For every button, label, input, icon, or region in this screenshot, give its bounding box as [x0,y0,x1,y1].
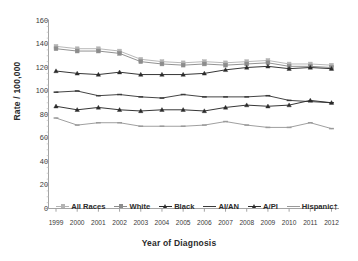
data-point [160,62,164,66]
series-all-races [54,44,333,67]
line-chart: Rate / 100,000 160140120100806040200 All… [0,0,358,261]
legend-label: All Races [71,202,105,211]
legend-label: White [129,202,150,211]
legend-item-hispanic-[interactable]: Hispanic† [287,202,338,211]
data-point [54,104,58,108]
x-axis-title: Year of Diagnosis [0,238,358,248]
series-white [54,47,333,70]
legend-label: AI/AN [218,202,239,211]
data-point [139,60,143,64]
series-hispanic- [54,118,334,129]
legend-item-black[interactable]: Black [159,202,194,211]
axis-ticks [45,21,331,212]
data-point [118,52,122,56]
legend-marker-icon [159,203,172,211]
legend-label: Black [174,202,194,211]
data-point [202,62,206,66]
legend-item-all-races[interactable]: All Races [56,202,105,211]
data-point [54,47,58,51]
data-point [75,49,79,53]
legend-label: Hispanic† [302,202,338,211]
series-ai-an [54,91,334,103]
chart-legend: All RacesWhiteBlackAI/ANA/PIHispanic† [56,200,338,213]
data-point [224,63,228,67]
legend-marker-icon [56,203,69,211]
legend-marker-icon [287,203,300,211]
legend-marker-icon [203,203,216,211]
axis-lines [49,20,340,209]
legend-item-ai-an[interactable]: AI/AN [203,202,239,211]
legend-label: A/PI [263,202,278,211]
data-point [96,49,100,53]
x-tick-label: 2012 [319,220,345,227]
legend-marker-icon [248,203,261,211]
data-point [181,63,185,67]
legend-marker-icon [114,203,127,211]
legend-item-white[interactable]: White [114,202,150,211]
x-axis-tick-labels: 1999200020012002200320042005200620072008… [0,220,358,234]
legend-item-a-pi[interactable]: A/PI [248,202,278,211]
